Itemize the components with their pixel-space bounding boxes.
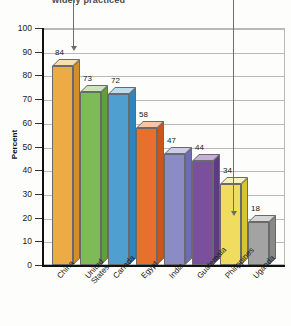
bar-india [164,147,185,265]
chart-title: widely practiced [52,0,125,5]
bar-value-label: 73 [83,74,92,83]
y-tick [35,123,42,124]
y-axis-line [42,28,44,266]
bar-value-label: 84 [55,48,64,57]
bar-value-label: 44 [195,143,204,152]
x-axis-line [42,265,285,267]
y-tick [35,265,42,266]
y-tick-label: 80 [0,71,32,80]
y-tick-label: 40 [0,166,32,175]
bar-value-label: 34 [223,166,232,175]
bar-china [52,59,73,265]
bar-front-face [192,161,213,265]
bar-front-face [52,66,73,265]
bar-value-label: 18 [251,204,260,213]
y-tick [35,170,42,171]
bar-front-face [80,92,101,265]
bar-united-states [80,85,101,265]
bar-side-face [157,121,164,265]
y-tick [35,241,42,242]
bar-side-face [73,59,80,265]
y-tick-label: 30 [0,190,32,199]
bar-value-label: 72 [111,76,120,85]
y-tick-label: 50 [0,143,32,152]
y-tick-label: 90 [0,48,32,57]
left-callout-arrow [73,0,74,46]
bar-egypt [136,121,157,265]
bar-guatemala [192,154,213,265]
y-tick-label: 0 [0,261,32,270]
right-callout-arrow-head [231,211,237,216]
y-tick [35,75,42,76]
bar-front-face [108,94,129,265]
y-tick [35,194,42,195]
gridline [42,53,284,54]
bar-side-face [129,88,136,265]
gridline [42,29,284,30]
bar-side-face [101,85,108,265]
bar-value-label: 47 [167,136,176,145]
bar-chart: widely practiced Percent 100908070605040… [0,0,291,326]
y-tick [35,28,42,29]
bar-front-face [164,154,185,265]
y-tick [35,52,42,53]
y-tick-label: 60 [0,119,32,128]
y-tick-label: 20 [0,214,32,223]
y-tick [35,147,42,148]
bar-side-face [185,147,192,265]
left-callout-arrow-head [71,46,77,51]
y-tick-label: 100 [0,24,32,33]
right-callout-arrow [233,0,234,211]
y-tick [35,99,42,100]
bar-canada [108,87,129,265]
bar-front-face [136,128,157,265]
y-tick-label: 10 [0,237,32,246]
y-tick-label: 70 [0,95,32,104]
bar-value-label: 58 [139,110,148,119]
y-tick [35,218,42,219]
